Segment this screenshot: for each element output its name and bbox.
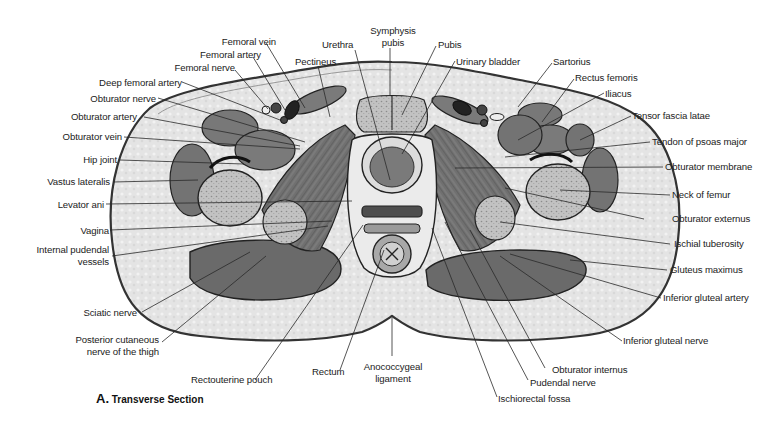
label-femoral-artery: Femoral artery — [200, 49, 261, 60]
label-urinary-bladder: Urinary bladder — [456, 56, 520, 67]
label-femoral-vein: Femoral vein — [222, 36, 276, 47]
caption-letter: A. — [96, 391, 109, 406]
label-obturator-membrane: Obturator membrane — [665, 161, 752, 172]
label-urethra: Urethra — [322, 39, 353, 50]
label-pectineus: Pectineus — [295, 56, 336, 67]
label-tendon-psoas-major: Tendon of psoas major — [652, 136, 747, 147]
label-gluteus-maximus: Gluteus maximus — [670, 264, 743, 275]
label-symphysis-pubis: Symphysis — [365, 25, 421, 36]
label-deep-femoral-artery: Deep femoral artery — [99, 77, 182, 88]
label-vagina: Vagina — [80, 225, 109, 236]
label-inferior-gluteal-artery: Inferior gluteal artery — [663, 292, 749, 303]
label-levator-ani: Levator ani — [58, 199, 104, 210]
label-iliacus: Iliacus — [605, 88, 632, 99]
vagina — [362, 206, 422, 217]
label-ischial-tuberosity: Ischial tuberosity — [674, 238, 744, 249]
label-femoral-nerve: Femoral nerve — [174, 62, 235, 73]
label-rectouterine-pouch: Rectouterine pouch — [191, 374, 272, 385]
label-pudendal-nerve: Pudendal nerve — [530, 377, 596, 388]
label-sartorius: Sartorius — [553, 56, 591, 67]
ischial-tuberosity-right — [475, 196, 515, 240]
label-posterior-cutaneous-nerve-2: nerve of the thigh — [87, 346, 159, 357]
label-symphysis-pubis-2: pubis — [365, 37, 421, 48]
caption-text: Transverse Section — [112, 394, 204, 405]
label-rectus-femoris: Rectus femoris — [575, 72, 638, 83]
label-obturator-nerve: Obturator nerve — [90, 93, 156, 104]
label-tensor-fascia-latae: Tensor fascia latae — [632, 110, 710, 121]
label-obturator-artery: Obturator artery — [71, 111, 137, 122]
label-obturator-vein: Obturator vein — [63, 131, 122, 142]
label-anococcygeal-ligament-2: ligament — [362, 373, 424, 384]
femur-left — [198, 170, 262, 226]
label-inferior-gluteal-nerve: Inferior gluteal nerve — [623, 335, 708, 346]
label-obturator-internus: Obturator internus — [552, 364, 628, 375]
figure-caption: A. Transverse Section — [96, 391, 204, 406]
label-rectum: Rectum — [312, 366, 344, 377]
anatomy-figure: Femoral vein Femoral artery Femoral nerv… — [0, 0, 782, 428]
label-pubis: Pubis — [438, 39, 462, 50]
label-ischiorectal-fossa: Ischiorectal fossa — [498, 393, 570, 404]
label-hip-joint: Hip joint — [83, 154, 117, 165]
label-sciatic-nerve: Sciatic nerve — [83, 307, 137, 318]
label-neck-of-femur: Neck of femur — [672, 189, 730, 200]
femur-right — [526, 164, 590, 220]
label-internal-pudendal-vessels-2: vessels — [78, 256, 109, 267]
label-obturator-externus: Obturator externus — [672, 213, 750, 224]
label-vastus-lateralis: Vastus lateralis — [47, 176, 110, 187]
label-anococcygeal-ligament: Anococcygeal — [362, 361, 424, 372]
label-internal-pudendal-vessels: Internal pudendal — [37, 244, 109, 255]
label-posterior-cutaneous-nerve: Posterior cutaneous — [76, 334, 159, 345]
